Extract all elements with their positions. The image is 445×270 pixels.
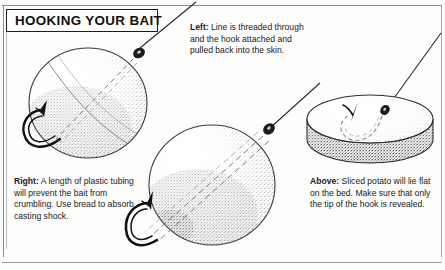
hook-barb xyxy=(147,191,153,210)
caption-right: Right: A length of plastic tubing will p… xyxy=(14,176,136,222)
knot-bead xyxy=(378,103,391,117)
bait-ball xyxy=(149,125,275,245)
frame-inner-left-border xyxy=(6,9,7,249)
caption-right-lead: Right: xyxy=(14,176,39,186)
caption-left: Left: Line is threaded through and the h… xyxy=(190,22,310,57)
dashed-internal-line xyxy=(56,59,133,139)
caption-above-lead: Above: xyxy=(310,176,339,186)
caption-above: Above: Sliced potato will lie flat on th… xyxy=(310,176,438,211)
frame-top-border xyxy=(2,5,442,6)
dashed-buried-hook xyxy=(341,114,382,140)
knot-bead xyxy=(261,121,277,137)
frame-left-border xyxy=(3,5,4,257)
caption-left-lead: Left: xyxy=(190,22,209,32)
potato-slice-top xyxy=(307,95,433,143)
illustration-bait-ball-with-tubing-centre xyxy=(126,83,320,259)
hook xyxy=(23,110,60,147)
plastic-tubing-dashed xyxy=(150,136,263,237)
page-title: HOOKING YOUR BAIT xyxy=(7,13,162,28)
ghost-bleed-text-bottom xyxy=(300,248,303,258)
frame-right-border xyxy=(441,5,442,257)
hook-point xyxy=(351,102,358,122)
illustration-sliced-potato-right xyxy=(300,33,441,170)
title-box: HOOKING YOUR BAIT xyxy=(6,9,158,32)
knot-bead xyxy=(131,45,147,60)
bait-ball xyxy=(29,48,147,158)
fishing-line xyxy=(384,33,441,112)
hook-barb xyxy=(40,100,47,117)
potato-slice-side xyxy=(307,119,433,163)
diagram-page: HOOKING YOUR BAIT Left: Line is threaded… xyxy=(0,0,445,270)
frame-bottom-border xyxy=(2,262,442,263)
fishing-line xyxy=(270,83,320,128)
